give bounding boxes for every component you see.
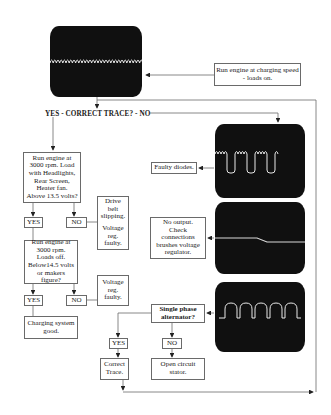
faulty-diodes-label: Faulty diodes.: [151, 162, 197, 174]
result-line: regulator.: [165, 249, 192, 257]
test2-box: Run engine at 3000 rpm. Loads off. Below…: [24, 240, 78, 284]
result-line: good.: [43, 328, 59, 336]
oscilloscope-screen-single-phase: [215, 282, 305, 352]
test2-no-tag: NO: [66, 295, 87, 306]
test1-no-tag: NO: [66, 217, 87, 228]
single-phase-question-box: Single phase alternator?: [151, 304, 205, 323]
charging-good-result-box: Charging system good.: [24, 316, 78, 339]
test2-yes-tag: YES: [24, 295, 43, 306]
test1-yes-tag: YES: [24, 217, 43, 228]
single-phase-yes-tag: YES: [109, 338, 128, 349]
result-line: faulty.: [104, 240, 122, 248]
test1-line: Above 13.5 volts?: [26, 193, 77, 201]
test1-box: Run engine at 3000 rpm. Load with Headli…: [23, 152, 81, 203]
half-wave-waveform-icon: [215, 282, 305, 352]
result-line: stator.: [170, 369, 187, 377]
result-line: faulty.: [104, 294, 122, 302]
start-instruction-box: Run engine at charging speed - loads on.: [214, 63, 301, 86]
result-line: Trace.: [106, 369, 123, 377]
single-phase-no-tag: NO: [162, 338, 182, 349]
voltage-reg-result-box: Voltage reg. faulty.: [97, 275, 129, 306]
no-output-label: No output. Check connections brushes vol…: [150, 217, 206, 259]
correct-trace-decision: YES - CORRECT TRACE? - NO: [45, 110, 150, 118]
open-circuit-result-box: Open circuit stator.: [151, 358, 205, 380]
ripple-waveform-icon: [50, 26, 142, 97]
drive-belt-result-box: Drive belt slipping. Voltage reg. faulty…: [97, 196, 129, 250]
correct-trace-result-box: Correct Trace.: [100, 358, 129, 380]
question-line: alternator?: [161, 314, 195, 322]
oscilloscope-screen-correct: [50, 26, 142, 97]
flat-line-waveform-icon: [215, 202, 305, 274]
test2-line: figure?: [41, 277, 61, 285]
start-label: Run engine at charging speed - loads on.: [216, 67, 299, 82]
faulty-diode-waveform-icon: [215, 124, 305, 198]
oscilloscope-screen-faulty-diodes: [215, 124, 305, 198]
oscilloscope-screen-no-output: [215, 202, 305, 274]
result-line: slipping.: [101, 213, 125, 221]
result-line: Faulty diodes.: [154, 164, 194, 172]
